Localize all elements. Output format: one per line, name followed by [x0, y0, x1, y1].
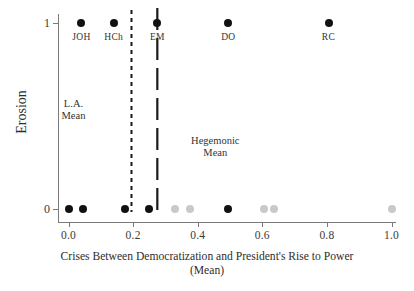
- x-axis-label-line2: (Mean): [0, 264, 414, 278]
- annotation-la-mean-line1: L.A.: [64, 98, 83, 109]
- data-point: [171, 205, 179, 213]
- data-point: [388, 205, 396, 213]
- data-point: [145, 205, 153, 213]
- data-point: [325, 19, 333, 27]
- point-label-joh: JOH: [72, 32, 90, 42]
- annotation-hegemonic-mean-line1: Hegemonic: [191, 135, 239, 146]
- point-label-do: DO: [221, 32, 235, 42]
- data-point: [121, 205, 129, 213]
- point-label-rc: RC: [322, 32, 335, 42]
- x-axis-label: Crises Between Democratization and Presi…: [0, 250, 414, 277]
- scatter-plot-figure: 0.00.20.40.60.81.0 01 JOHHChEMDORC L.A. …: [0, 0, 414, 291]
- x-axis-label-line1: Crises Between Democratization and Presi…: [61, 250, 354, 263]
- data-point: [79, 205, 87, 213]
- data-point: [224, 205, 232, 213]
- data-point: [77, 19, 85, 27]
- annotation-la-mean: L.A. Mean: [62, 98, 86, 122]
- point-label-hch: HCh: [104, 32, 123, 42]
- data-point: [110, 19, 118, 27]
- annotation-hegemonic-mean-line2: Mean: [191, 147, 239, 159]
- data-point: [186, 205, 194, 213]
- data-point: [270, 205, 278, 213]
- data-point: [260, 205, 268, 213]
- data-point: [153, 19, 161, 27]
- annotation-la-mean-line2: Mean: [62, 110, 86, 122]
- data-point: [224, 19, 232, 27]
- data-point: [65, 205, 73, 213]
- y-axis-label: Erosion: [14, 52, 30, 172]
- annotation-hegemonic-mean: Hegemonic Mean: [191, 135, 239, 159]
- point-label-em: EM: [150, 32, 165, 42]
